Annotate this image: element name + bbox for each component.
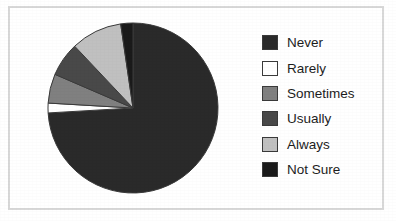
- legend-label-always: Always: [287, 137, 330, 152]
- legend-label-never: Never: [287, 35, 323, 50]
- legend: Never Rarely Sometimes Usually Always No…: [262, 30, 382, 182]
- legend-item-rarely[interactable]: Rarely: [262, 55, 382, 80]
- legend-label-not-sure: Not Sure: [287, 162, 340, 177]
- legend-item-sometimes[interactable]: Sometimes: [262, 81, 382, 106]
- legend-item-not-sure[interactable]: Not Sure: [262, 157, 382, 182]
- legend-swatch-never: [262, 35, 278, 50]
- legend-swatch-not-sure: [262, 162, 278, 177]
- legend-label-sometimes: Sometimes: [287, 86, 355, 101]
- pie-svg: [45, 20, 221, 196]
- pie-chart-figure: Never Rarely Sometimes Usually Always No…: [0, 0, 396, 221]
- legend-item-usually[interactable]: Usually: [262, 106, 382, 131]
- legend-swatch-sometimes: [262, 86, 278, 101]
- legend-item-never[interactable]: Never: [262, 30, 382, 55]
- legend-label-usually: Usually: [287, 111, 331, 126]
- pie-slice-group: [48, 23, 218, 193]
- legend-swatch-rarely: [262, 61, 278, 76]
- legend-swatch-usually: [262, 111, 278, 126]
- pie-plot-area: [45, 20, 221, 196]
- legend-swatch-always: [262, 137, 278, 152]
- legend-item-always[interactable]: Always: [262, 132, 382, 157]
- legend-label-rarely: Rarely: [287, 61, 326, 76]
